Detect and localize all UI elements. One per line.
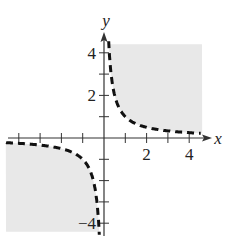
x-tick-label: 4 [185,145,194,164]
x-tick-label: 2 [142,145,151,164]
y-tick-label: −4 [78,214,97,233]
shaded-region-q1 [108,44,202,133]
x-axis-label: x [213,129,222,148]
y-axis-label: y [100,11,110,30]
y-tick-label: 4 [88,44,97,63]
graph: 2442−4xy [0,0,226,242]
y-tick-label: 2 [88,86,97,105]
